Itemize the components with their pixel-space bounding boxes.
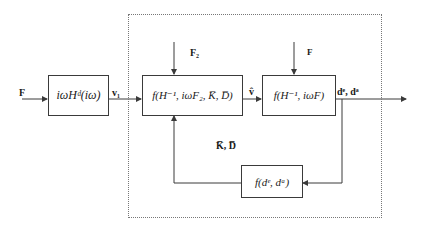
block-diagram: iωHᵈ(iω) f(H⁻¹, iωF₂, K̅, D̅) f(H⁻¹, iωF… xyxy=(0,0,426,230)
signal-v1-label: v₁ xyxy=(112,87,120,98)
block-estimator: f(H⁻¹, iωF₂, K̅, D̅) xyxy=(142,75,243,116)
signal-input-label: F xyxy=(19,87,25,98)
signal-vhat-label: v̂ xyxy=(249,86,254,97)
block-feedback: f(dᵉ, dᵃ) xyxy=(241,165,303,198)
block-response: f(H⁻¹, iωF) xyxy=(262,75,336,116)
signal-output-label: dᵉ, dᵃ xyxy=(337,86,359,97)
signal-f2-label: F₂ xyxy=(190,47,199,58)
block-feedback-label: f(dᵉ, dᵃ) xyxy=(255,176,289,188)
block-response-label: f(H⁻¹, iωF) xyxy=(274,89,324,102)
signal-feedback-label: K̅, D̅ xyxy=(216,140,236,151)
signal-f-label: F xyxy=(307,47,313,57)
block-estimator-label: f(H⁻¹, iωF₂, K̅, D̅) xyxy=(152,89,233,102)
block-transfer-function-label: iωHᵈ(iω) xyxy=(57,88,101,103)
block-transfer-function: iωHᵈ(iω) xyxy=(48,75,109,116)
